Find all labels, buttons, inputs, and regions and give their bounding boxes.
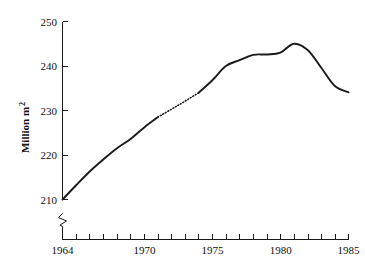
x-tick-label-1964: 1964	[52, 244, 75, 256]
y-axis-title-text: Million m	[19, 107, 31, 153]
y-tick-label-230: 230	[41, 105, 58, 117]
series-segment-interpolated	[158, 93, 199, 117]
series-segment-observed-early	[63, 117, 158, 199]
y-axis-break-icon	[59, 214, 67, 227]
y-axis-title: Million m 2	[18, 102, 31, 153]
series-segment-observed-late	[199, 44, 349, 93]
y-tick-label-220: 220	[41, 149, 58, 161]
x-tick-label-1970: 1970	[133, 244, 156, 256]
x-tick-label-1980: 1980	[270, 244, 293, 256]
y-tick-marks	[63, 22, 69, 200]
x-tick-label-1985: 1985	[338, 244, 361, 256]
chart-container: 250 240 230 220 210 Million m 2	[0, 0, 365, 270]
x-tick-marks	[63, 234, 349, 240]
y-axis-title-superscript: 2	[18, 102, 27, 106]
y-tick-label-250: 250	[41, 16, 58, 28]
y-tick-label-240: 240	[41, 60, 58, 72]
x-tick-label-1975: 1975	[202, 244, 225, 256]
line-chart: 250 240 230 220 210 Million m 2	[0, 0, 365, 270]
y-tick-label-210: 210	[41, 194, 58, 206]
